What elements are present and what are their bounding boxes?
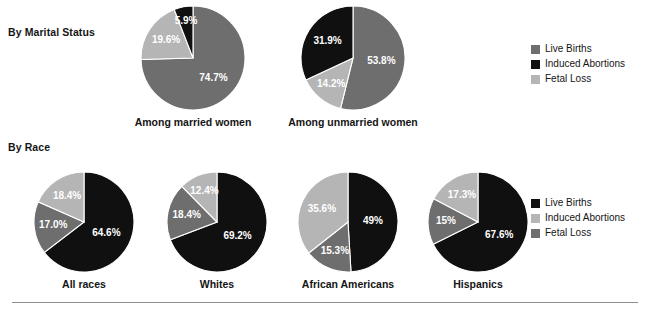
- section-label-marital-status: By Marital Status: [8, 26, 95, 38]
- pie-slice-label: 15%: [436, 215, 456, 226]
- pie-svg: 67.6%15%17.3%: [428, 172, 528, 272]
- pie-chart-unmarried: 53.8%14.2%31.9%Among unmarried women: [301, 6, 405, 110]
- pie-slice-label: 49%: [363, 215, 383, 226]
- pie-caption: African Americans: [302, 278, 394, 290]
- legend-label: Induced Abortions: [545, 213, 625, 223]
- legend-swatch-icon: [531, 214, 540, 223]
- pie-svg: 69.2%18.4%12.4%: [167, 172, 267, 272]
- legend-item: Induced Abortions: [531, 57, 625, 71]
- pie-slice-label: 12.4%: [190, 185, 218, 196]
- pie-svg: 74.7%19.6%5.9%: [141, 6, 245, 110]
- pie-slice-label: 31.9%: [313, 35, 341, 46]
- pie-caption: Whites: [200, 278, 234, 290]
- pie-slice-label: 64.6%: [92, 227, 120, 238]
- legend-item: Induced Abortions: [531, 211, 625, 225]
- legend-swatch-icon: [531, 75, 540, 84]
- legend-label: Fetal Loss: [545, 228, 591, 238]
- legend-swatch-icon: [531, 60, 540, 69]
- pie-slice-label: 18.4%: [173, 209, 201, 220]
- pie-slice-label: 19.6%: [152, 34, 180, 45]
- legend-item: Live Births: [531, 196, 625, 210]
- pie-chart-whites: 69.2%18.4%12.4%Whites: [167, 172, 267, 272]
- pie-slice-label: 15.3%: [321, 245, 349, 256]
- legend-item: Live Births: [531, 42, 625, 56]
- pie-chart-african-americans: 49%15.3%35.6%African Americans: [298, 172, 398, 272]
- pie-slice-label: 67.6%: [485, 229, 513, 240]
- pie-slice-label: 17.3%: [448, 189, 476, 200]
- legend-marital-status: Live BirthsInduced AbortionsFetal Loss: [531, 42, 625, 87]
- section-label-race: By Race: [8, 141, 50, 153]
- legend-swatch-icon: [531, 199, 540, 208]
- pie-slice-label: 35.6%: [308, 203, 336, 214]
- legend-item: Fetal Loss: [531, 72, 625, 86]
- pie-slice-label: 17.0%: [39, 219, 67, 230]
- pie-slice-label: 5.9%: [175, 15, 198, 26]
- pie-caption: Among married women: [135, 116, 252, 128]
- pie-slice-label: 53.8%: [367, 55, 395, 66]
- legend-race: Live BirthsInduced AbortionsFetal Loss: [531, 196, 625, 241]
- legend-swatch-icon: [531, 229, 540, 238]
- legend-item: Fetal Loss: [531, 226, 625, 240]
- pie-slice-label: 74.7%: [199, 72, 227, 83]
- pie-caption: Hispanics: [453, 278, 503, 290]
- pie-chart-all-races: 64.6%17.0%18.4%All races: [34, 172, 134, 272]
- pie-caption: All races: [62, 278, 106, 290]
- pie-chart-hispanics: 67.6%15%17.3%Hispanics: [428, 172, 528, 272]
- legend-label: Live Births: [545, 198, 592, 208]
- pie-svg: 64.6%17.0%18.4%: [34, 172, 134, 272]
- pie-chart-married: 74.7%19.6%5.9%Among married women: [141, 6, 245, 110]
- legend-label: Live Births: [545, 44, 592, 54]
- pie-svg: 53.8%14.2%31.9%: [301, 6, 405, 110]
- footer-divider: [12, 302, 638, 303]
- pie-caption: Among unmarried women: [288, 116, 418, 128]
- pie-slice-label: 69.2%: [223, 230, 251, 241]
- legend-label: Fetal Loss: [545, 74, 591, 84]
- pie-slice-label: 18.4%: [53, 190, 81, 201]
- legend-swatch-icon: [531, 45, 540, 54]
- pie-svg: 49%15.3%35.6%: [298, 172, 398, 272]
- legend-label: Induced Abortions: [545, 59, 625, 69]
- pie-slice-label: 14.2%: [317, 78, 345, 89]
